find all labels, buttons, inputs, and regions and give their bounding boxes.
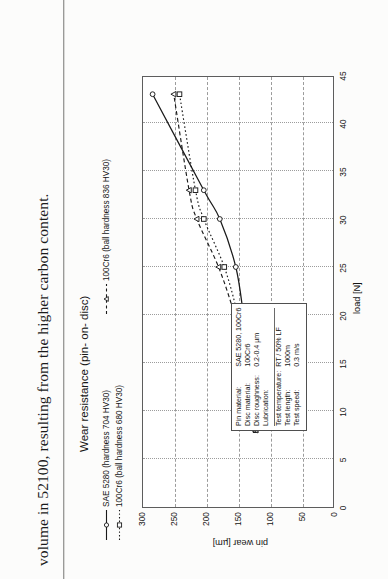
x-tick-label: 5 bbox=[338, 458, 348, 463]
data-point-marker bbox=[216, 264, 221, 269]
chart-title: Wear resistance (pin- on- disc) bbox=[78, 296, 90, 452]
x-tick-label: 35 bbox=[338, 167, 348, 176]
x-tick-label: 45 bbox=[338, 71, 348, 80]
y-tick-label: 300 bbox=[137, 512, 147, 534]
document-body-text: volume in 52100, resulting from the high… bbox=[34, 193, 52, 566]
test-condition-name: Disc material: bbox=[244, 367, 253, 426]
legend-item-sae5280: SAE 5280 (hardness 704 HV30) bbox=[102, 390, 111, 540]
data-point-marker bbox=[193, 188, 198, 193]
data-point-marker bbox=[194, 216, 199, 221]
data-point-marker bbox=[202, 217, 207, 222]
y-tick-label: 50 bbox=[297, 512, 307, 534]
x-tick-label: 0 bbox=[338, 506, 348, 511]
legend-label: 100Cr6 (ball hardness 836 HV30) bbox=[102, 159, 111, 281]
test-condition-row: Disc roughness:0.2-0.4 µm bbox=[253, 308, 262, 426]
test-condition-value: 0.3 m/s bbox=[293, 308, 302, 367]
y-tick-label: 100 bbox=[265, 512, 275, 534]
test-conditions-table: Pin material:SAE 5280, 100Cr6Disc materi… bbox=[235, 308, 303, 426]
x-tick-label: 15 bbox=[338, 359, 348, 368]
dotted-line-square-marker-icon bbox=[115, 510, 124, 540]
y-tick-label: 150 bbox=[233, 512, 243, 534]
test-conditions-box: Pin material:SAE 5280, 100Cr6Disc materi… bbox=[231, 303, 307, 431]
test-condition-name: Test speed: bbox=[293, 367, 302, 426]
test-condition-row: Test length:1000m bbox=[284, 308, 293, 426]
page-edge-rule-soft bbox=[64, 0, 65, 579]
data-point-marker bbox=[201, 188, 206, 193]
test-condition-name: Lubrication: bbox=[262, 367, 271, 426]
data-point-marker bbox=[171, 92, 176, 97]
test-condition-row: Lubrication: bbox=[262, 308, 271, 426]
test-condition-name: Test length: bbox=[284, 367, 293, 426]
test-condition-value: 0.2-0.4 µm bbox=[253, 308, 262, 367]
dashed-line-triangle-marker-icon bbox=[102, 284, 111, 314]
x-tick-label: 10 bbox=[338, 407, 348, 416]
test-condition-row: Pin material:SAE 5280, 100Cr6 bbox=[235, 308, 244, 426]
y-axis-label: pin wear [µm] bbox=[213, 538, 268, 548]
scanned-page: volume in 52100, resulting from the high… bbox=[0, 0, 388, 579]
x-axis-label: load [N] bbox=[352, 282, 362, 314]
figure-wear-resistance: Wear resistance (pin- on- disc) SAE 5280… bbox=[72, 32, 372, 572]
test-condition-value: RT / 50% LF bbox=[275, 308, 285, 367]
test-condition-name: Pin material: bbox=[235, 367, 244, 426]
data-point-marker bbox=[222, 265, 227, 270]
test-condition-name: Test temperature: bbox=[275, 367, 285, 426]
test-condition-row: Test speed:0.3 m/s bbox=[293, 308, 302, 426]
chart-legend: SAE 5280 (hardness 704 HV30) 100Cr6 (bal… bbox=[102, 76, 136, 546]
data-series-layer bbox=[143, 75, 335, 507]
legend-label: SAE 5280 (hardness 704 HV30) bbox=[102, 390, 111, 507]
data-point-marker bbox=[150, 92, 155, 97]
data-point-marker bbox=[177, 92, 182, 97]
y-tick-label: 200 bbox=[201, 512, 211, 534]
test-condition-value: 1000m bbox=[284, 308, 293, 367]
y-tick-label: 0 bbox=[329, 512, 339, 534]
legend-label: 100Cr6 (ball hardness 680 HV30) bbox=[115, 385, 124, 507]
y-tick-label: 250 bbox=[169, 512, 179, 534]
legend-item-100cr6-680: 100Cr6 (ball hardness 680 HV30) bbox=[115, 385, 124, 540]
test-condition-value bbox=[262, 308, 271, 367]
x-tick-label: 30 bbox=[338, 215, 348, 224]
x-tick-label: 40 bbox=[338, 119, 348, 128]
data-point-marker bbox=[233, 265, 238, 270]
x-tick-label: 20 bbox=[338, 311, 348, 320]
test-condition-row: Test temperature:RT / 50% LF bbox=[275, 308, 285, 426]
data-point-marker bbox=[217, 217, 222, 222]
plot-area: Pin material:SAE 5280, 100Cr6Disc materi… bbox=[142, 76, 334, 508]
x-tick-label: 25 bbox=[338, 263, 348, 272]
test-condition-row: Disc material:100Cr6 bbox=[244, 308, 253, 426]
document-clipped-line bbox=[12, 562, 30, 566]
test-condition-name: Disc roughness: bbox=[253, 367, 262, 426]
test-condition-value: SAE 5280, 100Cr6 bbox=[235, 308, 244, 367]
legend-item-100cr6-836: 100Cr6 (ball hardness 836 HV30) bbox=[102, 159, 111, 314]
solid-line-circle-marker-icon bbox=[102, 510, 111, 540]
test-condition-value: 100Cr6 bbox=[244, 308, 253, 367]
